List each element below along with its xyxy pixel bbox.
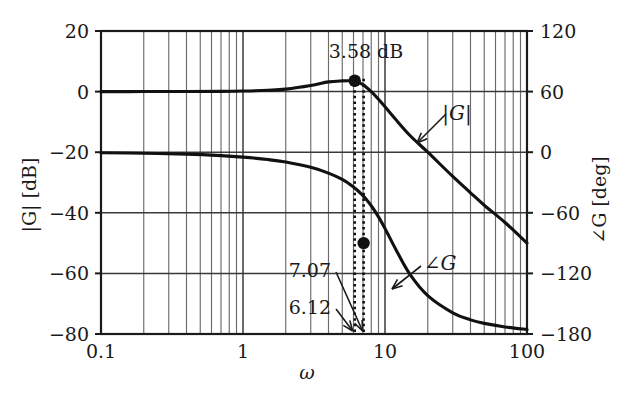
left-tick-label: 20 [65,20,89,42]
left-tick-label: 0 [77,81,89,103]
bottom-tick-label: 10 [373,340,397,362]
magnitude-curve-label: |G| [442,101,471,126]
bode-plot-canvas: 200−20−40−60−80 120600−60−120−180 0.1110… [0,0,633,399]
bottom-tick-label: 0.1 [86,340,116,362]
bode-plot-figure: 200−20−40−60−80 120600−60−120−180 0.1110… [0,0,633,399]
damped-frequency-annotation: 6.12 [289,296,331,318]
right-tick-label: 0 [540,141,552,163]
left-tick-label: −80 [49,323,89,345]
x-axis-title: ω [299,361,315,383]
left-tick-label: −20 [49,141,89,163]
right-tick-label: 60 [540,81,564,103]
y-left-axis-title: |G| [dB] [18,158,41,233]
right-tick-label: −120 [540,262,592,284]
peak-gain-annotation: 3.58 dB [329,40,403,62]
y-right-axis-title: ∠G [deg] [588,156,610,244]
right-tick-label: 120 [540,20,576,42]
magnitude-peak-marker [349,75,361,87]
bottom-tick-label: 100 [509,340,545,362]
y-left-axis-title-group: |G| [dB] [18,158,41,233]
phase-marker [357,237,369,249]
right-tick-label: −60 [540,202,580,224]
phase-curve-label: ∠G [424,251,457,275]
y-right-axis-title-group: ∠G [deg] [588,156,610,244]
resonant-frequency-annotation: 7.07 [289,259,331,281]
left-tick-label: −60 [49,262,89,284]
right-tick-label: −180 [540,323,592,345]
bottom-tick-label: 1 [237,340,249,362]
left-tick-label: −40 [49,202,89,224]
